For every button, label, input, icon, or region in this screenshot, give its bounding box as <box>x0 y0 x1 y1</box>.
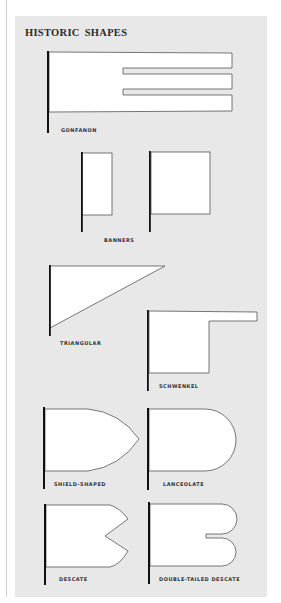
double-tailed-descate-pole <box>148 502 150 584</box>
banner-square-flag <box>151 152 210 214</box>
double-tailed-descate-flag <box>150 504 237 566</box>
triangular-pole <box>49 265 51 336</box>
triangular-label: TRIANGULAR <box>60 340 101 346</box>
shield-shaped-pole <box>43 407 45 489</box>
banners-label: BANNERS <box>104 237 134 243</box>
gonfanon-label: GONFANON <box>61 127 97 133</box>
schwenkel-pole <box>147 310 149 391</box>
lanceolate-label: LANCEOLATE <box>163 481 204 487</box>
flag-shapes-diagram <box>0 0 281 603</box>
descate-label: DESCATE <box>59 576 88 582</box>
banner-narrow-flag <box>82 153 112 215</box>
descate-pole <box>44 504 46 585</box>
double-tailed-descate-label: DOUBLE-TAILED DESCATE <box>159 576 240 582</box>
gonfanon-flag <box>49 52 232 112</box>
lanceolate-pole <box>147 408 149 490</box>
schwenkel-label: SCHWENKEL <box>159 383 199 389</box>
schwenkel-flag <box>149 311 257 373</box>
descate-flag <box>46 505 128 567</box>
gonfanon-pole <box>47 51 49 133</box>
banner-square-pole <box>149 151 151 232</box>
shield-shaped-label: SHIELD-SHAPED <box>54 481 106 487</box>
shield-shaped-flag <box>45 409 139 471</box>
lanceolate-flag <box>149 409 236 471</box>
banner-narrow-pole <box>81 152 83 232</box>
